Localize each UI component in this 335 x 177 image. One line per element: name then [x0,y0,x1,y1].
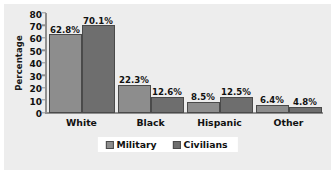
x-axis-category-label: White [66,118,97,127]
y-axis-tick-mark [42,37,46,38]
legend-item: Military [105,140,156,149]
plot-area: 62.8%70.1%White22.3%12.6%Black8.5%12.5%H… [47,13,323,113]
bar: 70.1% [82,25,115,112]
y-axis-tick-label: 60 [29,35,42,44]
bar-group: 6.4%4.8%Other [256,13,322,113]
bar: 12.6% [151,97,184,113]
y-axis-tick-mark [42,112,46,113]
bar-value-label: 8.5% [191,93,215,102]
legend-label: Military [116,140,156,149]
x-axis-category-label: Hispanic [197,118,242,127]
x-axis-category-label: Black [136,118,164,127]
bar: 12.5% [220,97,253,113]
y-axis-tick-label: 20 [29,85,42,94]
y-axis-tick-label: 40 [29,60,42,69]
bar-value-label: 22.3% [119,76,149,85]
y-axis-tick-label: 70 [29,22,42,31]
legend-swatch-icon [173,141,181,149]
y-axis-tick-mark [42,99,46,100]
bar-value-label: 70.1% [83,17,113,26]
y-axis-tick-mark [42,74,46,75]
y-axis-title-text: Percentage [14,35,24,91]
y-axis-title: Percentage [12,22,26,104]
y-axis-tick-label: 30 [29,72,42,81]
legend-item: Civilians [173,140,228,149]
y-axis-tick-label: 80 [29,10,42,19]
bar: 62.8% [49,34,82,112]
bar: 8.5% [187,102,220,113]
bar-group: 8.5%12.5%Hispanic [187,13,253,113]
bar-group: 22.3%12.6%Black [118,13,184,113]
y-axis-tick-mark [42,62,46,63]
y-axis-tick-mark [42,25,46,26]
bar-group: 62.8%70.1%White [49,13,115,113]
y-axis-tick-label: 50 [29,47,42,56]
bar-value-label: 4.8% [293,98,317,107]
legend-swatch-icon [105,141,113,149]
bar: 6.4% [256,105,289,113]
y-axis-tick-label: 10 [29,97,42,106]
legend-label: Civilians [184,140,228,149]
y-axis-tick-mark [42,12,46,13]
bar-value-label: 12.5% [221,88,251,97]
x-axis-category-label: Other [274,118,304,127]
bar-chart: Percentage 80706050403020100 62.8%70.1%W… [0,0,335,177]
bar-value-label: 6.4% [260,96,284,105]
bar: 22.3% [118,85,151,113]
bar: 4.8% [289,107,322,113]
chart-legend: MilitaryCivilians [97,137,237,152]
bar-value-label: 12.6% [152,88,182,97]
bar-value-label: 62.8% [50,26,80,35]
y-axis-tick-mark [42,87,46,88]
y-axis-tick-mark [42,50,46,51]
